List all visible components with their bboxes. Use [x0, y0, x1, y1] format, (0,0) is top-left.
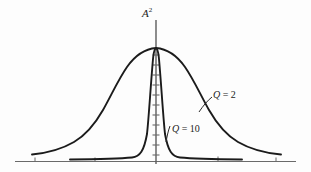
- q-value-q10: = 10: [179, 123, 200, 134]
- leader-q10: [166, 126, 170, 142]
- y-axis-symbol: A: [142, 7, 149, 19]
- resonance-curve-figure: A2 Q = 2 Q = 10: [0, 0, 311, 172]
- plot-canvas: [0, 0, 311, 172]
- y-axis-exponent: 2: [149, 6, 153, 14]
- q-value-q2: = 2: [220, 89, 236, 100]
- curve-label-q2: Q = 2: [213, 89, 236, 100]
- y-axis-label: A2: [142, 6, 152, 19]
- curve-label-q10: Q = 10: [172, 123, 200, 134]
